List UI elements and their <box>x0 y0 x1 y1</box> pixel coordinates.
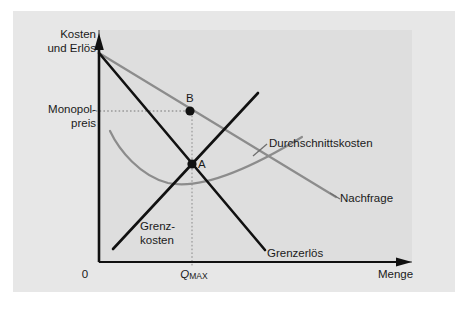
qmax-subscript: MAX <box>189 271 207 281</box>
y-axis-label-line2: und Erlös <box>47 42 96 54</box>
point-b-label: B <box>186 92 194 106</box>
monopoly-price-label: Monopol-preis <box>18 103 96 130</box>
demand-label: Nachfrage <box>340 192 393 206</box>
point-a-label: A <box>198 158 206 172</box>
x-axis-arrowhead <box>396 257 412 266</box>
x-axis-label: Menge <box>378 268 430 282</box>
demand-leader-line <box>330 193 340 199</box>
qmax-symbol: Q <box>180 268 189 280</box>
average-cost-label: Durchschnittskosten <box>269 137 373 151</box>
monopoly-price-label-line1: Monopol- <box>48 103 96 115</box>
marginal-revenue-label: Grenzerlös <box>267 247 323 261</box>
qmax-tick-label: QMAX <box>170 268 218 283</box>
origin-label: 0 <box>78 268 92 282</box>
marginal-cost-label: Grenz-kosten <box>140 220 196 247</box>
y-axis-label: Kostenund Erlös <box>24 28 96 55</box>
economics-diagram-figure: Kostenund Erlös Monopol-preis 0 QMAX Men… <box>0 0 469 321</box>
point-a-marker <box>187 159 196 168</box>
point-b-marker <box>185 106 194 115</box>
y-axis-label-line1: Kosten <box>60 28 96 40</box>
marginal-cost-label-line2: kosten <box>140 234 174 246</box>
marginal-cost-label-line1: Grenz- <box>140 220 175 232</box>
monopoly-price-label-line2: preis <box>71 117 96 129</box>
demand-curve <box>99 53 336 197</box>
